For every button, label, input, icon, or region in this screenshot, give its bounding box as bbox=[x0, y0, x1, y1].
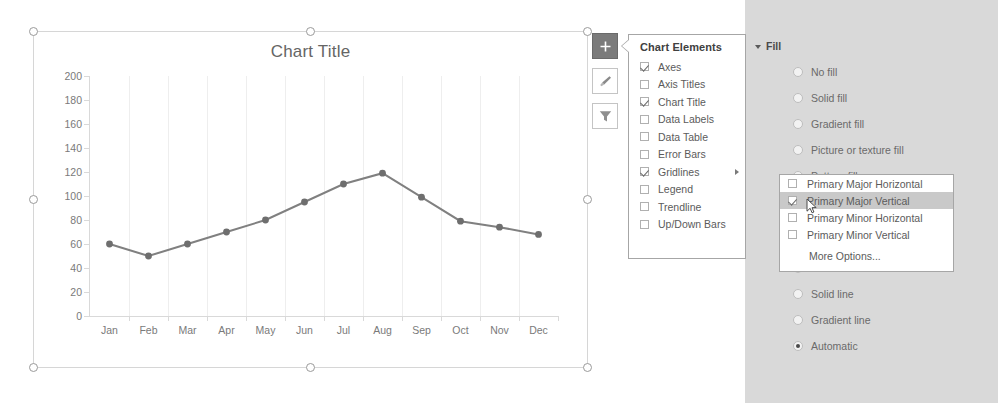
data-point-marker[interactable] bbox=[106, 241, 113, 248]
fill-line-option[interactable]: Gradient line bbox=[793, 314, 871, 326]
chart-element-item[interactable]: Error Bars bbox=[629, 146, 745, 164]
radio-button-icon[interactable] bbox=[793, 145, 803, 155]
chart-styles-button[interactable] bbox=[592, 68, 618, 94]
chart-element-item[interactable]: Trendline bbox=[629, 198, 745, 216]
checkbox-unchecked-icon[interactable] bbox=[640, 115, 649, 124]
submenu-arrow-icon[interactable] bbox=[735, 169, 739, 175]
chart-elements-menu[interactable]: Chart Elements AxesAxis TitlesChart Titl… bbox=[628, 34, 746, 259]
radio-button-selected-icon[interactable] bbox=[793, 341, 803, 351]
data-point-marker[interactable] bbox=[379, 170, 386, 177]
data-point-marker[interactable] bbox=[418, 194, 425, 201]
y-tick-label: 180 bbox=[48, 94, 82, 106]
chart-element-label: Error Bars bbox=[658, 148, 706, 160]
gridlines-option-label: Primary Major Horizontal bbox=[807, 178, 923, 190]
radio-button-icon[interactable] bbox=[793, 289, 803, 299]
data-point-marker[interactable] bbox=[145, 253, 152, 260]
x-tick-label: Aug bbox=[373, 324, 392, 336]
option-label: No fill bbox=[811, 66, 837, 78]
chart-element-label: Trendline bbox=[658, 201, 701, 213]
chart-element-item[interactable]: Axis Titles bbox=[629, 76, 745, 94]
checkbox-unchecked-icon[interactable] bbox=[788, 213, 797, 222]
data-point-marker[interactable] bbox=[535, 231, 542, 238]
checkbox-unchecked-icon[interactable] bbox=[640, 220, 649, 229]
chart-element-item[interactable]: Data Table bbox=[629, 128, 745, 146]
gridlines-option[interactable]: Primary Minor Vertical bbox=[780, 226, 953, 243]
x-axis-tick bbox=[519, 316, 520, 321]
data-point-marker[interactable] bbox=[262, 217, 269, 224]
x-tick-label: May bbox=[256, 324, 276, 336]
data-point-marker[interactable] bbox=[496, 224, 503, 231]
x-axis-tick bbox=[402, 316, 403, 321]
data-point-marker[interactable] bbox=[223, 229, 230, 236]
chart-element-item[interactable]: Data Labels bbox=[629, 111, 745, 129]
gridlines-submenu[interactable]: Primary Major HorizontalPrimary Major Ve… bbox=[779, 174, 954, 272]
y-axis-tick bbox=[84, 148, 89, 149]
radio-button-icon[interactable] bbox=[793, 93, 803, 103]
checkbox-unchecked-icon[interactable] bbox=[640, 132, 649, 141]
data-series-line[interactable] bbox=[90, 76, 558, 317]
fill-line-option[interactable]: Automatic bbox=[793, 340, 858, 352]
resize-handle-top-right[interactable] bbox=[583, 27, 592, 36]
chart-element-item[interactable]: Up/Down Bars bbox=[629, 216, 745, 234]
data-point-marker[interactable] bbox=[184, 241, 191, 248]
x-tick-label: Oct bbox=[452, 324, 468, 336]
y-axis-tick bbox=[84, 316, 89, 317]
data-point-marker[interactable] bbox=[301, 199, 308, 206]
radio-button-icon[interactable] bbox=[793, 67, 803, 77]
chart-element-item[interactable]: Legend bbox=[629, 181, 745, 199]
chart-element-item[interactable]: Chart Title bbox=[629, 93, 745, 111]
checkbox-unchecked-icon[interactable] bbox=[788, 179, 797, 188]
checkbox-checked-icon[interactable] bbox=[640, 167, 649, 176]
chart-object[interactable]: Chart Title 200180160140120100806040200 … bbox=[33, 31, 588, 368]
gridlines-option[interactable]: Primary Major Horizontal bbox=[780, 175, 953, 192]
y-tick-label: 200 bbox=[48, 70, 82, 82]
chart-element-label: Axis Titles bbox=[658, 78, 705, 90]
chart-element-item[interactable]: Gridlines bbox=[629, 163, 745, 181]
fill-line-option[interactable]: Gradient fill bbox=[793, 118, 864, 130]
fill-line-option[interactable]: Solid line bbox=[793, 288, 854, 300]
fill-line-option[interactable]: Solid fill bbox=[793, 92, 847, 104]
brush-icon bbox=[598, 74, 613, 89]
fill-line-option[interactable]: No fill bbox=[793, 66, 837, 78]
chart-element-label: Axes bbox=[658, 61, 681, 73]
resize-handle-top-center[interactable] bbox=[306, 27, 315, 36]
checkbox-unchecked-icon[interactable] bbox=[640, 150, 649, 159]
chart-elements-button[interactable] bbox=[592, 33, 618, 59]
checkbox-checked-icon[interactable] bbox=[788, 196, 797, 205]
chart-title[interactable]: Chart Title bbox=[34, 42, 587, 62]
data-point-marker[interactable] bbox=[457, 218, 464, 225]
x-axis-tick bbox=[168, 316, 169, 321]
fill-section-header[interactable]: Fill bbox=[755, 40, 781, 52]
x-axis-tick bbox=[207, 316, 208, 321]
checkbox-unchecked-icon[interactable] bbox=[640, 185, 649, 194]
checkbox-unchecked-icon[interactable] bbox=[640, 80, 649, 89]
checkbox-unchecked-icon[interactable] bbox=[788, 230, 797, 239]
y-axis-tick bbox=[84, 268, 89, 269]
checkbox-unchecked-icon[interactable] bbox=[640, 202, 649, 211]
y-axis-tick bbox=[84, 124, 89, 125]
y-tick-label: 120 bbox=[48, 166, 82, 178]
chart-filters-button[interactable] bbox=[592, 103, 618, 129]
y-tick-label: 140 bbox=[48, 142, 82, 154]
plot-wrapper: 200180160140120100806040200 JanFebMarApr… bbox=[34, 76, 589, 369]
chart-element-item[interactable]: Axes bbox=[629, 58, 745, 76]
x-axis-tick bbox=[129, 316, 130, 321]
chart-elements-header: Chart Elements bbox=[629, 35, 745, 58]
resize-handle-top-left[interactable] bbox=[29, 27, 38, 36]
option-label: Gradient fill bbox=[811, 118, 864, 130]
option-label: Gradient line bbox=[811, 314, 871, 326]
chart-element-label: Gridlines bbox=[658, 166, 699, 178]
more-options-item[interactable]: More Options... bbox=[780, 247, 953, 265]
fill-line-option[interactable]: Picture or texture fill bbox=[793, 144, 904, 156]
option-label: Picture or texture fill bbox=[811, 144, 904, 156]
x-tick-label: Apr bbox=[218, 324, 234, 336]
checkbox-checked-icon[interactable] bbox=[640, 62, 649, 71]
radio-button-icon[interactable] bbox=[793, 119, 803, 129]
y-tick-label: 100 bbox=[48, 190, 82, 202]
y-tick-label: 0 bbox=[48, 310, 82, 322]
chart-element-label: Data Labels bbox=[658, 113, 714, 125]
data-point-marker[interactable] bbox=[340, 181, 347, 188]
checkbox-checked-icon[interactable] bbox=[640, 97, 649, 106]
radio-button-icon[interactable] bbox=[793, 315, 803, 325]
x-tick-label: Jun bbox=[296, 324, 313, 336]
